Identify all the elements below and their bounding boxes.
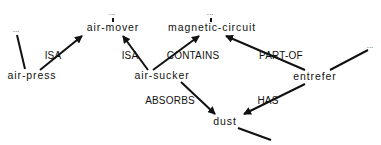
stub-right-ellipsis-to-entrefer [330,50,368,70]
stub-dust-outgoing [238,128,271,140]
node-air-sucker: air-sucker [134,69,189,81]
ellipsis-left: ... [13,25,20,34]
node-dust: dust [213,115,236,127]
relation-label-part-of: PART-OF [259,50,303,61]
node-entrefer: entrefer [293,70,336,82]
relation-label-contains: CONTAINS [167,50,220,61]
relation-label-isa-left: ISA [45,50,62,61]
ellipsis-air-mover: ... [109,8,116,17]
stub-left-ellipsis-to-air-press [17,35,25,69]
semantic-network-diagram: ... ... ... ... air-mover magnetic-circu… [0,0,381,145]
relation-label-isa-middle: ISA [122,50,139,61]
node-magnetic-circuit: magnetic-circuit [168,21,256,33]
ellipsis-right: ... [367,41,374,50]
ellipsis-magnetic-circuit: ... [207,8,214,17]
relation-label-has: HAS [257,95,278,106]
node-air-press: air-press [8,69,57,81]
node-air-mover: air-mover [87,21,139,33]
relation-label-absorbs: ABSORBS [145,95,195,106]
